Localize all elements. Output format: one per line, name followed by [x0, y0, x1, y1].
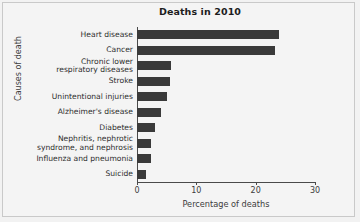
bar-category-label: Suicide	[105, 170, 133, 178]
bar	[137, 92, 167, 101]
bar	[137, 61, 171, 70]
tick-label: 0	[134, 186, 139, 195]
tick-mark	[196, 182, 197, 185]
bar-category-label: Nephritis, nephrotic syndrome, and nephr…	[37, 135, 133, 152]
bar-category-label: Chronic lower respiratory diseases	[56, 57, 133, 74]
bar-category-label: Alzheimer's disease	[58, 108, 133, 116]
tick-mark	[256, 182, 257, 185]
bar-row: Diabetes	[137, 120, 315, 136]
tick-mark	[137, 182, 138, 185]
bar-row: Nephritis, nephrotic syndrome, and nephr…	[137, 136, 315, 152]
tick-label: 10	[191, 186, 201, 195]
bar-category-label: Influenza and pneumonia	[36, 155, 133, 163]
bar-row: Stroke	[137, 74, 315, 90]
bar-row: Unintentional injuries	[137, 89, 315, 105]
bar-row: Influenza and pneumonia	[137, 151, 315, 167]
bar-row: Chronic lower respiratory diseases	[137, 58, 315, 74]
bar	[137, 123, 155, 132]
bar-category-label: Cancer	[106, 46, 133, 54]
bar-row: Cancer	[137, 43, 315, 59]
tick-label: 20	[251, 186, 261, 195]
bar	[137, 154, 151, 163]
tick-mark	[315, 182, 316, 185]
chart-screenshot: Deaths in 2010 Causes of death Heart dis…	[0, 0, 360, 222]
x-axis-title: Percentage of deaths	[137, 199, 315, 209]
bar-category-label: Stroke	[109, 77, 133, 85]
bar	[137, 170, 146, 179]
chart-title: Deaths in 2010	[0, 6, 360, 17]
bar	[137, 139, 151, 148]
plot-area: Heart diseaseCancerChronic lower respira…	[137, 27, 315, 182]
bar-row: Heart disease	[137, 27, 315, 43]
bar-category-label: Unintentional injuries	[52, 93, 133, 101]
bar-row: Alzheimer's disease	[137, 105, 315, 121]
bar	[137, 30, 279, 39]
bar	[137, 108, 161, 117]
bar	[137, 46, 275, 55]
bar-rows: Heart diseaseCancerChronic lower respira…	[137, 27, 315, 182]
bar-category-label: Heart disease	[81, 31, 133, 39]
bar-category-label: Diabetes	[99, 124, 133, 132]
bar	[137, 77, 170, 86]
bar-row: Suicide	[137, 167, 315, 183]
tick-label: 30	[310, 186, 320, 195]
y-axis-title: Causes of death	[14, 9, 23, 129]
